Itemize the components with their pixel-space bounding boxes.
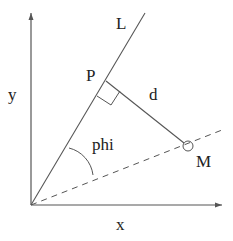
perpendicular-d xyxy=(106,81,184,143)
label-y: y xyxy=(8,85,17,104)
label-phi: phi xyxy=(92,135,114,154)
angle-phi-arc xyxy=(69,148,93,175)
line-L xyxy=(31,13,145,205)
label-d: d xyxy=(149,85,158,104)
label-L: L xyxy=(116,14,126,33)
geometry-diagram: L P d y phi M x xyxy=(0,0,233,241)
label-P: P xyxy=(86,66,95,85)
label-x: x xyxy=(116,215,125,234)
point-M-marker xyxy=(183,141,193,151)
label-M: M xyxy=(196,152,211,171)
dashed-line-OM xyxy=(31,130,222,205)
right-angle-marker xyxy=(97,91,120,105)
